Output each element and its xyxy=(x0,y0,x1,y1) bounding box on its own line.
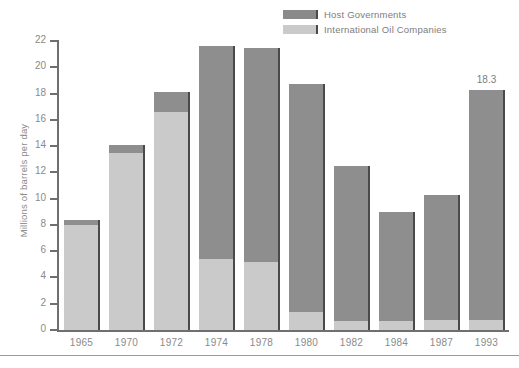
bar-segment-host-governments[interactable] xyxy=(469,90,503,320)
bar-segment-international-oil-companies[interactable] xyxy=(64,225,98,330)
y-axis-tick-label: 2 xyxy=(20,297,46,308)
y-axis-tick-label: 10 xyxy=(20,192,46,203)
y-axis-tick-label: 12 xyxy=(20,165,46,176)
stacked-bar[interactable] xyxy=(109,145,145,330)
legend-swatch-international-oil-companies-icon xyxy=(283,25,318,34)
y-axis-tick xyxy=(50,198,59,200)
x-axis-label: 1982 xyxy=(329,337,374,348)
bar-segment-international-oil-companies[interactable] xyxy=(244,262,278,330)
y-axis-tick-label: 16 xyxy=(20,113,46,124)
footer-cutoff-text xyxy=(70,361,450,368)
bar-group[interactable] xyxy=(109,41,145,330)
y-axis-tick xyxy=(50,40,59,42)
bar-segment-international-oil-companies[interactable] xyxy=(469,320,503,331)
bars-container: 18.3 xyxy=(59,41,509,330)
stacked-bar[interactable] xyxy=(289,84,325,330)
y-axis-tick-label: 14 xyxy=(20,139,46,150)
footer-divider xyxy=(0,355,519,356)
bar-segment-host-governments[interactable] xyxy=(244,48,278,262)
stacked-bar[interactable] xyxy=(154,92,190,330)
x-axis-label: 1978 xyxy=(239,337,284,348)
stacked-bar[interactable] xyxy=(64,220,100,330)
y-axis-tick xyxy=(50,93,59,95)
bar-segment-host-governments[interactable] xyxy=(379,212,413,321)
legend-item-international-oil-companies: International Oil Companies xyxy=(283,23,447,35)
y-axis-tick-label: 22 xyxy=(20,34,46,45)
bar-segment-international-oil-companies[interactable] xyxy=(334,321,368,330)
bar-group[interactable] xyxy=(334,41,370,330)
bar-group[interactable] xyxy=(379,41,415,330)
stacked-bar[interactable] xyxy=(424,195,460,330)
y-axis-tick xyxy=(50,145,59,147)
stacked-bar[interactable] xyxy=(379,212,415,330)
stacked-bar[interactable] xyxy=(244,48,280,330)
y-axis-tick xyxy=(50,276,59,278)
bar-segment-host-governments[interactable] xyxy=(424,195,458,320)
legend-label-host-governments: Host Governments xyxy=(324,9,406,20)
bar-group[interactable] xyxy=(244,41,280,330)
chart-legend: Host Governments International Oil Compa… xyxy=(283,8,447,38)
bar-segment-international-oil-companies[interactable] xyxy=(289,312,323,330)
x-axis-label: 1980 xyxy=(284,337,329,348)
bar-group[interactable] xyxy=(154,41,190,330)
bar-value-label: 18.3 xyxy=(469,74,505,85)
x-axis-label: 1965 xyxy=(59,337,104,348)
x-axis-label: 1993 xyxy=(464,337,509,348)
y-axis-tick-label: 8 xyxy=(20,218,46,229)
y-axis-tick xyxy=(50,329,59,331)
x-axis-label: 1987 xyxy=(419,337,464,348)
bar-group[interactable] xyxy=(424,41,460,330)
x-axis-label: 1970 xyxy=(104,337,149,348)
x-axis-label: 1984 xyxy=(374,337,419,348)
x-axis-line xyxy=(57,330,509,332)
y-axis-tick-label: 6 xyxy=(20,244,46,255)
bar-segment-host-governments[interactable] xyxy=(289,84,323,311)
bar-group[interactable] xyxy=(64,41,100,330)
bar-segment-host-governments[interactable] xyxy=(199,46,233,259)
stacked-bar[interactable] xyxy=(334,166,370,330)
y-axis-tick xyxy=(50,224,59,226)
legend-label-international-oil-companies: International Oil Companies xyxy=(324,24,447,35)
y-axis-tick xyxy=(50,171,59,173)
bar-segment-international-oil-companies[interactable] xyxy=(154,112,188,330)
y-axis-tick-label: 18 xyxy=(20,87,46,98)
bar-segment-international-oil-companies[interactable] xyxy=(109,153,143,330)
stacked-bar-chart: Host Governments International Oil Compa… xyxy=(0,0,519,368)
bar-segment-host-governments[interactable] xyxy=(64,220,98,225)
y-axis-tick xyxy=(50,119,59,121)
y-axis-tick xyxy=(50,250,59,252)
legend-swatch-host-governments-icon xyxy=(283,10,318,19)
stacked-bar[interactable] xyxy=(199,46,235,330)
bar-segment-host-governments[interactable] xyxy=(154,92,188,112)
stacked-bar[interactable] xyxy=(469,90,505,330)
y-axis-tick-label: 4 xyxy=(20,270,46,281)
legend-item-host-governments: Host Governments xyxy=(283,8,447,20)
bar-segment-host-governments[interactable] xyxy=(334,166,368,322)
x-axis-label: 1974 xyxy=(194,337,239,348)
y-axis-tick xyxy=(50,303,59,305)
bar-segment-international-oil-companies[interactable] xyxy=(199,259,233,330)
y-axis-tick-label: 20 xyxy=(20,60,46,71)
bar-group[interactable] xyxy=(199,41,235,330)
x-axis-label: 1972 xyxy=(149,337,194,348)
bar-group[interactable]: 18.3 xyxy=(469,41,505,330)
bar-segment-international-oil-companies[interactable] xyxy=(424,320,458,331)
y-axis-tick-label: 0 xyxy=(20,323,46,334)
bar-segment-international-oil-companies[interactable] xyxy=(379,321,413,330)
y-axis-tick xyxy=(50,66,59,68)
bar-group[interactable] xyxy=(289,41,325,330)
bar-segment-host-governments[interactable] xyxy=(109,145,143,153)
